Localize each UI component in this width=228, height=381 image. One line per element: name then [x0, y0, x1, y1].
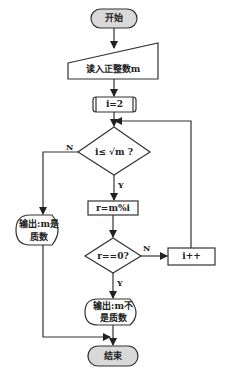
end-label: 结束	[88, 350, 138, 362]
init-label: i=2	[93, 98, 136, 110]
mod-label: r=m%i	[88, 202, 138, 214]
input-label: 读入正整数m	[68, 63, 158, 75]
output-not-prime-line1: 输出:m不	[86, 300, 140, 312]
condition-1-yes-label: Y	[118, 180, 124, 190]
condition-2-yes-label: Y	[117, 278, 123, 288]
condition-1-no-label: N	[66, 142, 73, 152]
output-not-prime-line2: 是质数	[86, 312, 140, 324]
increment-label: i++	[168, 250, 215, 262]
condition-2-no-label: N	[143, 243, 150, 253]
output-prime-line1: 输出:m是	[16, 218, 62, 230]
condition-1-label: i≤ √m ?	[84, 146, 144, 158]
condition-2-label: r==0?	[89, 250, 137, 262]
start-label: 开始	[91, 12, 137, 24]
output-prime-line2: 质数	[16, 231, 62, 243]
